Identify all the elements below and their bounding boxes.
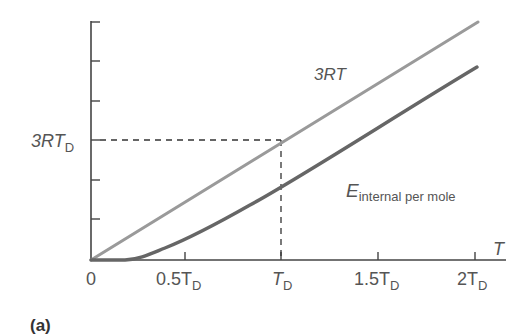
x-tick-2td: 2TD bbox=[457, 269, 487, 293]
x-ticks bbox=[185, 252, 475, 260]
panel-label: (a) bbox=[30, 316, 51, 335]
x-tick-labels: 0 0.5TD TD 1.5TD 2TD bbox=[86, 269, 487, 293]
label-e-internal: Einternal per mole bbox=[346, 180, 456, 204]
series-3rt-line bbox=[91, 22, 478, 260]
x-tick-0: 0 bbox=[86, 269, 96, 289]
x-tick-0-5td: 0.5TD bbox=[156, 269, 201, 293]
series-e-internal-curve bbox=[91, 67, 477, 260]
y-tick-label-3rtd: 3RTD bbox=[31, 131, 74, 155]
y-ticks bbox=[91, 22, 100, 219]
x-axis-label: T bbox=[493, 239, 506, 259]
axes bbox=[90, 21, 506, 261]
label-3rt: 3RT bbox=[314, 65, 347, 84]
chart: 3RT Einternal per mole 3RTD T 0 0.5TD TD… bbox=[0, 0, 528, 336]
x-tick-td: TD bbox=[272, 269, 292, 293]
x-tick-1-5td: 1.5TD bbox=[354, 269, 399, 293]
